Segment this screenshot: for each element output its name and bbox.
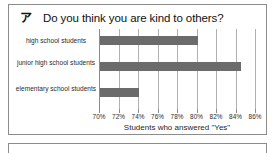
category-label-junior-high-school: junior high school students bbox=[13, 59, 99, 67]
bar-1 bbox=[100, 62, 241, 71]
x-axis-tick-label: 76% bbox=[151, 113, 164, 120]
question-panel: ア Do you think you are kind to others? h… bbox=[8, 4, 267, 135]
question-header: ア Do you think you are kind to others? bbox=[9, 7, 266, 29]
category-label-elementary-school: elementary school students bbox=[13, 85, 99, 93]
question-marker: ア bbox=[9, 12, 43, 24]
x-axis-tick-label: 78% bbox=[171, 113, 184, 120]
plot-area bbox=[99, 29, 255, 109]
x-axis-title: Students who answered "Yes" bbox=[99, 123, 255, 132]
category-axis-labels: high school students junior high school … bbox=[11, 29, 99, 109]
bar-0 bbox=[100, 36, 198, 45]
x-axis-tick-label: 70% bbox=[93, 113, 106, 120]
category-label-high-school: high school students bbox=[13, 37, 99, 45]
bar-chart: high school students junior high school … bbox=[9, 29, 268, 134]
bar-2 bbox=[100, 88, 139, 97]
screenshot-root: ア Do you think you are kind to others? h… bbox=[0, 0, 276, 153]
gridline bbox=[255, 29, 256, 109]
x-axis-tick-label: 82% bbox=[210, 113, 223, 120]
x-axis-tick-label: 86% bbox=[249, 113, 262, 120]
x-axis-tick-label: 72% bbox=[112, 113, 125, 120]
page-title: Do you think you are kind to others? bbox=[43, 12, 224, 24]
x-axis-tick-labels: 70%72%74%76%78%80%82%84%86% bbox=[99, 113, 255, 123]
x-axis-tick-label: 80% bbox=[190, 113, 203, 120]
x-axis-tick-label: 74% bbox=[132, 113, 145, 120]
next-question-panel bbox=[8, 143, 267, 153]
x-axis-tick-label: 84% bbox=[229, 113, 242, 120]
